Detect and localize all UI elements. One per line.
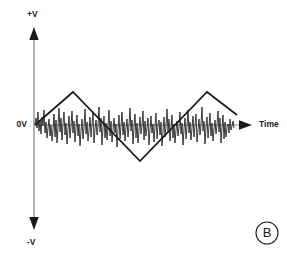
panel-label-text: B — [263, 225, 272, 240]
y-axis-bottom-label: -V — [27, 237, 36, 247]
y-axis-zero-label: 0V — [17, 119, 28, 129]
x-axis-label: Time — [259, 119, 279, 129]
waveform-figure: +V 0V -V Time B — [0, 0, 287, 255]
y-axis-top-label: +V — [27, 9, 38, 19]
